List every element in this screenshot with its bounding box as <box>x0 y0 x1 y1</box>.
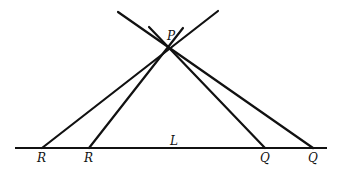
line-p-r2 <box>89 28 183 148</box>
label-r2: R <box>83 151 93 165</box>
label-q2: Q <box>308 151 318 165</box>
geometry-diagram: P L R R Q Q <box>0 0 337 176</box>
label-p: P <box>166 29 176 43</box>
label-q1: Q <box>260 151 270 165</box>
line-p-q2 <box>118 12 313 148</box>
lines-through-p <box>42 11 313 148</box>
label-r1: R <box>36 151 46 165</box>
line-p-r1 <box>42 11 218 148</box>
label-l: L <box>169 134 178 148</box>
